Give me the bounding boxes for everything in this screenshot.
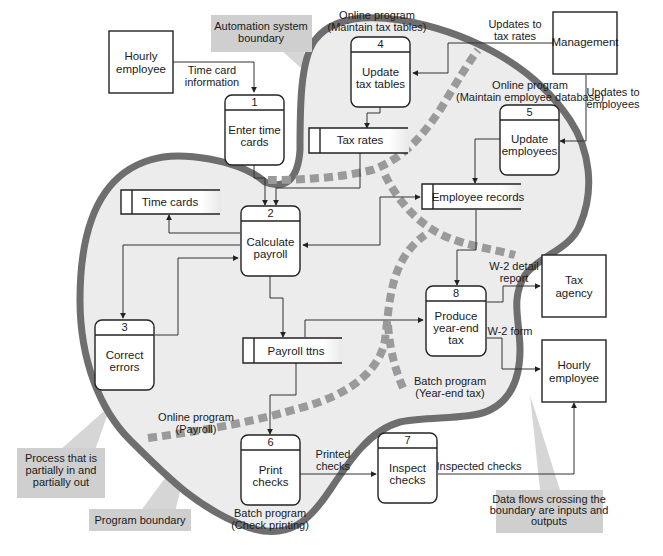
process-label: Correct bbox=[106, 349, 145, 361]
process-label: checks bbox=[253, 476, 289, 488]
flow-label: information bbox=[185, 76, 239, 88]
program-label: (Payroll) bbox=[176, 423, 217, 435]
process-label: errors bbox=[109, 361, 139, 373]
store-label: Tax rates bbox=[337, 134, 384, 146]
program-label: Batch program bbox=[414, 375, 486, 387]
callout-program-boundary: Program boundary bbox=[89, 509, 191, 531]
flow-label: report bbox=[500, 272, 529, 284]
callout-text: boundary bbox=[238, 32, 284, 44]
process-label: employees bbox=[502, 145, 558, 157]
store-payroll-ttns[interactable]: Payroll ttns bbox=[243, 338, 343, 363]
process-label: Inspect bbox=[389, 462, 427, 474]
callout-text: Process that is bbox=[25, 452, 98, 464]
entity-tax-agency[interactable]: Tax agency bbox=[542, 255, 606, 317]
process-3[interactable]: 3 Correct errors bbox=[95, 320, 154, 390]
program-label: Online program bbox=[158, 411, 234, 423]
program-label: (Check printing) bbox=[231, 519, 309, 531]
program-label: Online program bbox=[339, 9, 415, 21]
process-number: 5 bbox=[526, 106, 532, 118]
process-label: Calculate bbox=[247, 236, 295, 248]
callout-text: Program boundary bbox=[94, 514, 186, 526]
entity-label: Management bbox=[551, 36, 619, 48]
process-number: 3 bbox=[121, 321, 127, 333]
store-tax-rates[interactable]: Tax rates bbox=[309, 128, 409, 153]
process-label: cards bbox=[240, 136, 268, 148]
callout-tail-partial bbox=[60, 405, 111, 450]
flow-label: Printed bbox=[316, 448, 351, 460]
process-label: payroll bbox=[254, 248, 288, 260]
store-time-cards[interactable]: Time cards bbox=[121, 190, 221, 214]
callout-text: Automation system bbox=[214, 20, 308, 32]
process-label: Produce bbox=[435, 310, 478, 322]
callout-automation-boundary: Automation system boundary bbox=[211, 15, 312, 52]
program-label: Batch program bbox=[234, 507, 306, 519]
process-number: 2 bbox=[267, 207, 273, 219]
process-6[interactable]: 6 Print checks bbox=[241, 435, 300, 505]
flow-label: W-2 detail bbox=[489, 260, 538, 272]
process-label: Enter time bbox=[228, 124, 280, 136]
program-label: Online program bbox=[492, 79, 568, 91]
entity-hourly-employee-top[interactable]: Hourly employee bbox=[109, 31, 173, 93]
process-label: tax bbox=[448, 334, 464, 346]
store-label: Time cards bbox=[142, 196, 199, 208]
callout-text: partially in and bbox=[26, 464, 97, 476]
process-4[interactable]: 4 Update tax tables bbox=[351, 37, 410, 107]
entity-label: Tax bbox=[565, 274, 583, 286]
program-label: (Maintain employee database) bbox=[456, 91, 604, 103]
store-label: Payroll ttns bbox=[268, 345, 325, 357]
flow-label: Updates to bbox=[488, 18, 541, 30]
process-number: 8 bbox=[453, 287, 459, 299]
process-label: tax tables bbox=[356, 78, 405, 90]
flow-label: Inspected checks bbox=[437, 460, 522, 472]
process-number: 1 bbox=[251, 96, 257, 108]
process-label: Update bbox=[511, 133, 548, 145]
flow-label: Time card bbox=[188, 64, 237, 76]
process-label: year-end bbox=[433, 322, 478, 334]
process-number: 4 bbox=[377, 38, 383, 50]
flow-label: checks bbox=[316, 460, 351, 472]
callout-partial-process: Process that is partially in and partial… bbox=[17, 448, 105, 498]
process-number: 7 bbox=[404, 434, 410, 446]
callout-text: partially out bbox=[33, 476, 89, 488]
entity-label: Hourly bbox=[124, 50, 157, 62]
flow-label: tax rates bbox=[494, 30, 537, 42]
process-label: Print bbox=[259, 464, 283, 476]
entity-label: employee bbox=[549, 372, 599, 384]
store-label: Employee records bbox=[432, 191, 525, 203]
flow-label: W-2 form bbox=[487, 325, 532, 337]
callout-tail-dataflows bbox=[530, 395, 560, 490]
process-1[interactable]: 1 Enter time cards bbox=[225, 95, 284, 165]
entity-management[interactable]: Management bbox=[551, 12, 619, 74]
callout-text: outputs bbox=[531, 515, 568, 527]
entity-label: agency bbox=[555, 287, 592, 299]
callout-data-flows-crossing: Data flows crossing the boundary are inp… bbox=[490, 490, 609, 533]
store-employee-records[interactable]: Employee records bbox=[422, 184, 525, 209]
process-2[interactable]: 2 Calculate payroll bbox=[241, 206, 300, 276]
program-label: (Year-end tax) bbox=[415, 387, 484, 399]
process-label: checks bbox=[390, 474, 426, 486]
process-label: Update bbox=[362, 66, 399, 78]
dfd-diagram: Hourly employee Management Tax agency Ho… bbox=[0, 0, 663, 556]
process-8[interactable]: 8 Produce year-end tax bbox=[426, 286, 486, 356]
entity-label: employee bbox=[116, 63, 166, 75]
program-label: (Maintain tax tables) bbox=[327, 21, 426, 33]
entity-label: Hourly bbox=[557, 359, 590, 371]
entity-hourly-employee-bottom[interactable]: Hourly employee bbox=[542, 340, 606, 402]
process-5[interactable]: 5 Update employees bbox=[500, 105, 559, 175]
process-number: 6 bbox=[267, 436, 273, 448]
process-7[interactable]: 7 Inspect checks bbox=[378, 433, 437, 503]
